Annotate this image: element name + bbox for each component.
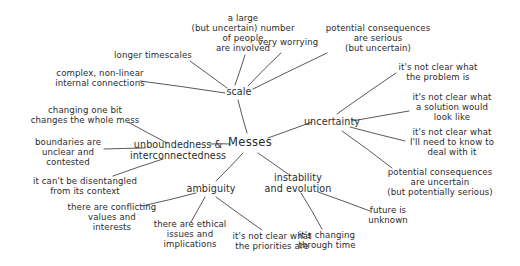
mind-map-canvas: Messesscaleuncertaintyunboundedness & in…	[0, 0, 520, 266]
edge-scale-to-longer-timescales	[190, 61, 227, 88]
leaf-node-cant-disentangle: it can't be disentangled from its contex…	[33, 176, 137, 196]
edge-uncertainty-to-consequences-uncertain	[342, 131, 392, 168]
edge-uncertainty-to-unclear-need-to-know	[350, 127, 405, 141]
edge-uncertainty-to-unclear-problem	[337, 73, 396, 114]
branch-node-uncertainty: uncertainty	[304, 116, 360, 127]
leaf-node-conflicting-values: there are conflicting values and interes…	[68, 202, 157, 232]
branch-node-instability: instability and evolution	[265, 172, 332, 195]
edge-scale-to-complex-nonlinear	[140, 81, 225, 93]
edge-scale-to-large-number	[235, 55, 245, 85]
edge-instability-to-future-unknown	[318, 192, 370, 211]
leaf-node-very-worrying: very worrying	[258, 37, 319, 47]
edge-root-to-scale	[238, 100, 247, 133]
leaf-node-unclear-solution: it's not clear what a solution would loo…	[412, 92, 491, 122]
root-node-messes: Messes	[228, 136, 272, 150]
leaf-node-future-unknown: future is unknown	[368, 205, 408, 225]
leaf-node-consequences-serious: potential consequences are serious (but …	[326, 23, 430, 53]
leaf-node-complex-nonlinear: complex, non-linear internal connections	[55, 68, 145, 88]
leaf-node-large-number: a large (but uncertain) number of people…	[191, 13, 294, 54]
branch-node-unboundedness: unboundedness & interconnectedness	[130, 139, 226, 162]
edge-scale-to-consequences-serious	[253, 53, 327, 89]
leaf-node-changing-through-time: it's changing through time	[298, 230, 355, 250]
leaf-node-boundaries-unclear: boundaries are unclear and contested	[35, 137, 101, 167]
branch-node-scale: scale	[226, 86, 251, 97]
edge-unboundedness-to-cant-disentangled	[113, 159, 163, 176]
edge-scale-to-very-worrying	[248, 53, 281, 86]
leaf-node-longer-timescales: longer timescales	[114, 50, 192, 60]
leaf-node-consequences-uncertain: potential consequences are uncertain (bu…	[387, 167, 493, 197]
edge-uncertainty-to-unclear-solution	[352, 111, 409, 121]
leaf-node-unclear-need-to-know: it's not clear what I'll need to know to…	[410, 127, 494, 157]
leaf-node-unclear-problem: it's not clear what the problem is	[398, 62, 477, 82]
leaf-node-changing-one-bit: changing one bit changes the whole mess	[31, 105, 140, 125]
branch-node-ambiguity: ambiguity	[186, 183, 235, 194]
leaf-node-ethical-issues: there are ethical issues and implication…	[154, 219, 227, 249]
edge-instability-to-changing-through-time	[301, 193, 322, 229]
